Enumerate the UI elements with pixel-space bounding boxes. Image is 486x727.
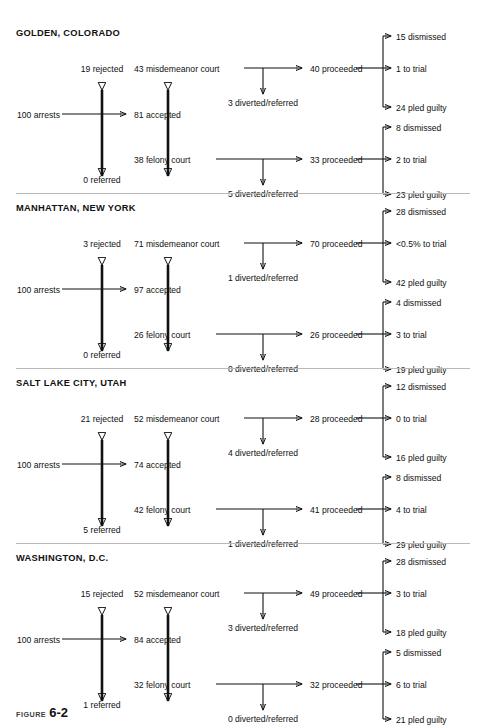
node-arrests: 100 arrests [17,110,60,120]
node-misd-dismissed: 28 dismissed [396,557,446,567]
node-fel-diverted: 0 diverted/referred [228,364,298,374]
node-fel-pled: 23 pled guilty [396,190,447,200]
node-misd-diverted: 3 diverted/referred [228,623,298,633]
node-referred: 1 referred [83,700,120,710]
node-referred: 0 referred [83,175,120,185]
node-misd-pled: 18 pled guilty [396,628,447,638]
flow-wires [0,553,486,723]
node-arrests: 100 arrests [17,635,60,645]
node-misd-trial: 3 to trial [396,589,427,599]
flow-wires [0,378,486,548]
node-fel-trial: 3 to trial [396,330,427,340]
figure-container: GOLDEN, COLORADO [0,0,486,727]
node-fel-dismissed: 8 dismissed [396,123,441,133]
node-fel-trial: 4 to trial [396,505,427,515]
panel-jurisdiction: SALT LAKE CITY, UTAH 100 arrests 21 reje… [0,378,486,548]
node-rejected: 21 rejected [81,414,124,424]
node-felony: 42 felony court [134,505,190,515]
node-fel-pled: 21 pled guilty [396,715,447,725]
node-fel-proceeded: 41 proceeded [310,505,363,515]
flow-wires [0,28,486,198]
node-rejected: 15 rejected [81,589,124,599]
node-felony: 32 felony court [134,680,190,690]
node-misd-pled: 16 pled guilty [396,453,447,463]
node-fel-diverted: 5 diverted/referred [228,189,298,199]
node-fel-trial: 2 to trial [396,155,427,165]
node-felony: 26 felony court [134,330,190,340]
node-misd-trial: 1 to trial [396,64,427,74]
node-fel-trial: 6 to trial [396,680,427,690]
node-felony: 38 felony court [134,155,190,165]
panel-divider [16,543,470,544]
node-misd-dismissed: 15 dismissed [396,32,446,42]
node-misd-dismissed: 12 dismissed [396,382,446,392]
node-fel-proceeded: 33 proceeded [310,155,363,165]
node-accepted: 84 accepted [134,635,181,645]
node-fel-diverted: 0 diverted/referred [228,714,298,724]
node-misd-dismissed: 28 dismissed [396,207,446,217]
node-accepted: 97 accepted [134,285,181,295]
node-accepted: 74 accepted [134,460,181,470]
node-fel-dismissed: 8 dismissed [396,473,441,483]
node-misd-proceeded: 49 proceeded [310,589,363,599]
node-misd-diverted: 4 diverted/referred [228,448,298,458]
node-misd-proceeded: 40 proceeded [310,64,363,74]
panel-jurisdiction: WASHINGTON, D.C. 100 arrests 15 rejected… [0,553,486,723]
panel-jurisdiction: GOLDEN, COLORADO [0,28,486,198]
node-fel-diverted: 1 diverted/referred [228,539,298,549]
node-fel-dismissed: 5 dismissed [396,648,441,658]
node-accepted: 81 accepted [134,110,181,120]
node-misd-pled: 42 pled guilty [396,278,447,288]
node-referred: 0 referred [83,350,120,360]
node-fel-proceeded: 26 proceeded [310,330,363,340]
node-fel-dismissed: 4 dismissed [396,298,441,308]
node-arrests: 100 arrests [17,460,60,470]
node-referred: 5 referred [83,525,120,535]
node-fel-pled: 29 pled guilty [396,540,447,550]
node-rejected: 19 rejected [81,64,124,74]
node-arrests: 100 arrests [17,285,60,295]
node-misd-proceeded: 70 proceeded [310,239,363,249]
panel-divider [16,193,470,194]
node-fel-pled: 19 pled guilty [396,365,447,375]
panel-jurisdiction: MANHATTAN, NEW YORK 100 arrests 3 reject… [0,203,486,373]
figure-caption: FIGURE6-2 [16,703,68,721]
node-misdemeanor: 71 misdemeanor court [134,239,220,249]
flow-wires [0,203,486,373]
figure-caption-word: FIGURE [16,710,46,719]
node-fel-proceeded: 32 proceeded [310,680,363,690]
node-misdemeanor: 52 misdemeanor court [134,589,220,599]
node-misd-diverted: 1 diverted/referred [228,273,298,283]
node-misd-trial: 0 to trial [396,414,427,424]
figure-caption-number: 6-2 [49,705,68,720]
node-misdemeanor: 52 misdemeanor court [134,414,220,424]
node-rejected: 3 rejected [83,239,121,249]
node-misd-pled: 24 pled guilty [396,103,447,113]
node-misd-trial: <0.5% to trial [396,239,446,249]
node-misd-diverted: 3 diverted/referred [228,98,298,108]
node-misd-proceeded: 28 proceeded [310,414,363,424]
panel-divider [16,368,470,369]
node-misdemeanor: 43 misdemeanor court [134,64,220,74]
